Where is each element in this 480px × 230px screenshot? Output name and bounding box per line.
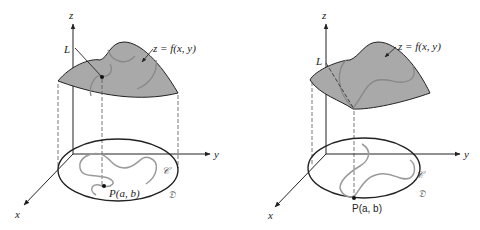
left-point-P-label: P(a, b) (108, 187, 140, 200)
left-line-L-label: L (63, 43, 70, 55)
right-panel: z L z = f(x, y) y x P(a, b) 𝒞 𝔇 (267, 9, 469, 221)
left-surface-label: z = f(x, y) (152, 42, 196, 55)
right-point-P-label: P(a, b) (352, 203, 382, 214)
right-surface (310, 42, 430, 109)
right-y-axis-label: y (463, 148, 469, 160)
left-point-P (102, 184, 106, 188)
right-surface-label: z = f(x, y) (397, 40, 441, 53)
left-x-axis (24, 154, 73, 205)
right-point-P (352, 196, 356, 200)
right-z-axis-label: z (321, 9, 327, 21)
left-x-axis-label: x (14, 208, 20, 220)
left-y-axis-label: y (213, 148, 219, 160)
right-curve-C-label: 𝒞 (416, 169, 426, 180)
left-panel: z L z = f(x, y) y x P(a, b) 𝒞 𝔇 (14, 9, 219, 220)
right-region-D-label: 𝔇 (418, 188, 426, 199)
right-x-axis-label: x (267, 209, 273, 221)
figure: z L z = f(x, y) y x P(a, b) 𝒞 𝔇 (0, 0, 480, 230)
left-surface-point (100, 75, 104, 79)
right-line-L-label: L (315, 55, 322, 67)
right-x-axis (275, 154, 326, 207)
left-z-axis-label: z (68, 9, 74, 21)
left-curve-C-label: 𝒞 (162, 165, 172, 176)
right-region-D (308, 138, 420, 198)
left-region-D-label: 𝔇 (168, 189, 176, 200)
